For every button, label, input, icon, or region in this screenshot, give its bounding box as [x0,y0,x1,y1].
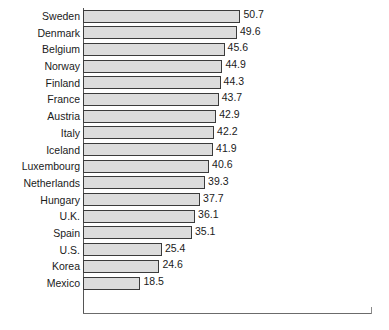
bar-track [83,160,209,173]
bar-track [83,10,240,23]
bar-row: Netherlands39.3 [0,175,389,192]
bar-track [83,226,192,239]
category-label: Norway [44,58,80,75]
category-label: Italy [61,125,80,142]
bar-track [83,277,140,290]
bar-track [83,176,205,189]
x-axis-baseline [83,313,372,314]
category-label: Iceland [46,142,80,159]
bar-row: Iceland41.9 [0,142,389,159]
bar-track [83,260,159,273]
bar-row: Austria42.9 [0,108,389,125]
bar-row: Sweden50.7 [0,8,389,25]
bar-row: Spain35.1 [0,225,389,242]
bar-value-label: 42.2 [217,125,237,138]
bar [83,43,225,56]
bar-row: Denmark49.6 [0,25,389,42]
category-label: Belgium [42,41,80,58]
bar-value-label: 18.5 [143,275,163,288]
bar-value-label: 25.4 [165,242,185,255]
bar-value-label: 44.9 [225,58,245,71]
bar [83,160,209,173]
category-label: Netherlands [23,175,80,192]
bar [83,243,162,256]
bar-row: Finland44.3 [0,75,389,92]
bar-value-label: 37.7 [203,192,223,205]
bar-value-label: 40.6 [212,158,232,171]
bar-track [83,126,214,139]
bar-track [83,26,237,39]
bar [83,193,200,206]
bar [83,143,213,156]
bar-value-label: 49.6 [240,25,260,38]
bar-value-label: 41.9 [216,142,236,155]
category-label: Sweden [42,8,80,25]
category-label: Austria [47,108,80,125]
bar [83,176,205,189]
bar-track [83,76,221,89]
category-label: Spain [53,225,80,242]
bar-row: U.K.36.1 [0,208,389,225]
bars-area: Sweden50.7Denmark49.6Belgium45.6Norway44… [0,8,389,308]
bar [83,277,140,290]
bar-chart: Sweden50.7Denmark49.6Belgium45.6Norway44… [0,0,389,330]
bar-track [83,60,222,73]
bar [83,26,237,39]
bar [83,60,222,73]
bar-track [83,93,219,106]
bar-track [83,143,213,156]
bar-row: Korea24.6 [0,258,389,275]
bar [83,10,240,23]
bar-value-label: 43.7 [222,91,242,104]
category-label: France [47,91,80,108]
category-label: Denmark [37,25,80,42]
bar-value-label: 39.3 [208,175,228,188]
bar-row: Belgium45.6 [0,41,389,58]
bar [83,93,219,106]
category-label: Korea [52,258,80,275]
x-axis-end-tick [371,307,372,314]
bar-track [83,43,225,56]
bar-row: France43.7 [0,91,389,108]
bar [83,76,221,89]
bar-row: Norway44.9 [0,58,389,75]
bar-track [83,210,195,223]
bar-track [83,110,216,123]
bar-value-label: 44.3 [224,75,244,88]
bar-value-label: 42.9 [219,108,239,121]
bar-row: Luxembourg40.6 [0,158,389,175]
bar-value-label: 24.6 [162,258,182,271]
bar [83,226,192,239]
bar [83,260,159,273]
bar-value-label: 50.7 [243,8,263,21]
category-label: Mexico [47,275,80,292]
category-label: Hungary [40,192,80,209]
bar-row: Hungary37.7 [0,192,389,209]
bar [83,110,216,123]
bar [83,210,195,223]
bar-value-label: 35.1 [195,225,215,238]
bar [83,126,214,139]
bar-value-label: 45.6 [228,41,248,54]
bar-track [83,243,162,256]
bar-row: Italy42.2 [0,125,389,142]
category-label: U.K. [60,208,80,225]
bar-row: U.S.25.4 [0,242,389,259]
bar-value-label: 36.1 [198,208,218,221]
bar-row: Mexico18.5 [0,275,389,292]
category-label: U.S. [60,242,80,259]
category-label: Finland [46,75,80,92]
bar-track [83,193,200,206]
category-label: Luxembourg [22,158,80,175]
